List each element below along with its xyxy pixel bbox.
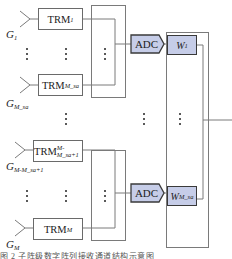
trm-block-m-msa-1: TRMM-M_sa+1 (33, 140, 83, 162)
trm-label: TRM (42, 80, 65, 91)
figure-caption: 图 2 子阵级数字阵列接收通道结构示意图 (0, 250, 232, 259)
antenna-icon (15, 220, 25, 236)
diagram-canvas: TRM1 TRMM_sa TRMM-M_sa+1 TRMM G1 GM_sa G… (0, 0, 232, 259)
trm-block-m: TRMM (33, 218, 83, 240)
antenna-label-g-msa: GM_sa (6, 97, 28, 110)
antenna-label-g-m-msa-1: GM-M_sa+1 (6, 160, 44, 173)
antenna-icon (20, 77, 30, 93)
antenna-icon (20, 11, 30, 27)
weight-block-1: W1 (167, 35, 197, 55)
trm-sub: 1 (70, 16, 73, 23)
antenna-label-g1: G1 (6, 28, 17, 41)
trm-label: TRM (44, 224, 67, 235)
trm-block-1: TRM1 (38, 8, 83, 30)
adc-block-2: ADC (131, 184, 162, 202)
trm-sub: M-M_sa+1 (57, 144, 82, 158)
adc-block-1: ADC (131, 35, 162, 53)
trm-block-msa: TRMM_sa (38, 74, 83, 96)
trm-sub: M_sa (65, 82, 79, 89)
antenna-icon (15, 142, 25, 158)
trm-sub: M (67, 226, 72, 233)
weight-block-msa: WM_sa (167, 186, 197, 206)
trm-label: TRM (47, 14, 70, 25)
trm-label: TRM (34, 146, 57, 157)
